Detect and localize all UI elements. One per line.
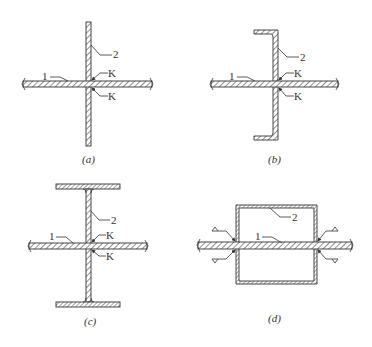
panel-a: 1 2 K K (a) [22, 22, 153, 166]
weld-symbol-bottom: K [294, 90, 302, 102]
weld-leader-left-top [212, 231, 235, 241]
label-1: 1 [49, 230, 55, 242]
caption-d: (d) [268, 312, 281, 325]
connection-detail-figure: 1 2 K K (a) 1 2 K K (b) 1 [0, 0, 372, 347]
caption-a: (a) [82, 153, 95, 166]
member-1-plate [29, 243, 147, 249]
weld-leader-bottom [92, 250, 106, 256]
caption-b: (b) [268, 153, 281, 166]
label-1: 1 [42, 70, 48, 82]
weld-symbol-top: K [106, 229, 114, 241]
leader-1 [56, 237, 73, 243]
weld-leader-bottom [92, 88, 108, 96]
panel-d: 1 2 (d) [197, 205, 353, 325]
label-2: 2 [292, 211, 298, 223]
weld-flag-right-top [332, 227, 338, 231]
weld-leader-left-bottom [212, 250, 235, 259]
weld-leader-top [92, 235, 106, 242]
weld-leader-right-top [318, 231, 338, 241]
weld-flag-left-bottom [212, 259, 218, 263]
weld-leader-bottom [279, 88, 294, 96]
label-1: 1 [229, 70, 235, 82]
panel-c: 1 2 K K (c) [28, 184, 148, 328]
weld-symbol-bottom: K [106, 250, 114, 262]
leader-1 [50, 77, 68, 81]
weld-leader-top [92, 73, 108, 80]
member-1-plate [198, 242, 352, 249]
weld-symbol-top: K [294, 67, 302, 79]
leader-2 [91, 45, 112, 55]
weld-leader-right-bottom [318, 250, 338, 259]
leader-1 [237, 77, 255, 81]
weld-leader-top [279, 73, 294, 80]
label-2: 2 [113, 48, 119, 60]
leader-2 [278, 48, 299, 57]
leader-2 [91, 211, 110, 220]
weld-symbol-top: K [108, 67, 116, 79]
label-1: 1 [255, 230, 261, 242]
label-2: 2 [300, 51, 306, 63]
bottom-flange [56, 302, 120, 307]
weld-flag-left-top [212, 227, 218, 231]
top-flange [56, 184, 120, 189]
weld-flag-right-bottom [332, 259, 338, 263]
leader-2 [270, 208, 291, 217]
panel-b: 1 2 K K (b) [210, 30, 339, 166]
label-2: 2 [111, 214, 117, 226]
caption-c: (c) [84, 315, 97, 328]
weld-symbol-bottom: K [108, 90, 116, 102]
